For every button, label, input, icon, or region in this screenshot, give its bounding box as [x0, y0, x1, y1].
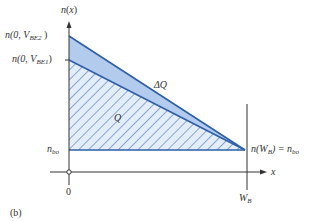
- y-axis-label: n(x): [61, 5, 77, 15]
- nbo-label: nbo: [47, 144, 59, 156]
- vbe1-label: n(0, VBE1): [12, 54, 52, 66]
- delta-q-label: ΔQ: [154, 80, 167, 90]
- panel-label: (b): [10, 208, 22, 218]
- vbe2-label: n(0, VBE2 ): [5, 30, 47, 42]
- wb-label: WB: [239, 193, 252, 205]
- q-label: Q: [114, 113, 121, 123]
- origin-marker: [67, 170, 71, 174]
- origin-label: 0: [66, 187, 71, 197]
- x-axis-arrow: [260, 170, 267, 175]
- y-axis-arrow: [67, 21, 72, 28]
- nwb-label: n(WB) = nbo: [251, 144, 299, 156]
- x-axis-label: x: [271, 167, 275, 177]
